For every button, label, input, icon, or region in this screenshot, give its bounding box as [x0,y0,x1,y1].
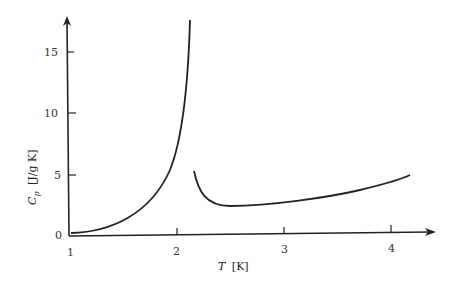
curve-below-lambda [71,20,190,233]
chart: 0 5 10 15 1 2 3 4 T [K] Cp [J/g K] [0,0,455,289]
y-tick-label-0: 0 [55,229,62,242]
curve-above-lambda [194,171,410,206]
y-axis-label: Cp [J/g K] [26,149,42,205]
y-tick-label-5: 5 [54,169,61,182]
y-ticks [68,52,76,175]
x-tick-label-2: 2 [173,245,180,258]
x-tick-label-3: 3 [281,243,288,256]
x-axis-label: T [K] [218,260,249,273]
x-axis [69,232,430,236]
y-tick-label-10: 10 [44,107,58,120]
x-tick-label-1: 1 [67,246,74,259]
x-tick-label-4: 4 [388,242,395,255]
y-tick-label-15: 15 [44,46,58,59]
